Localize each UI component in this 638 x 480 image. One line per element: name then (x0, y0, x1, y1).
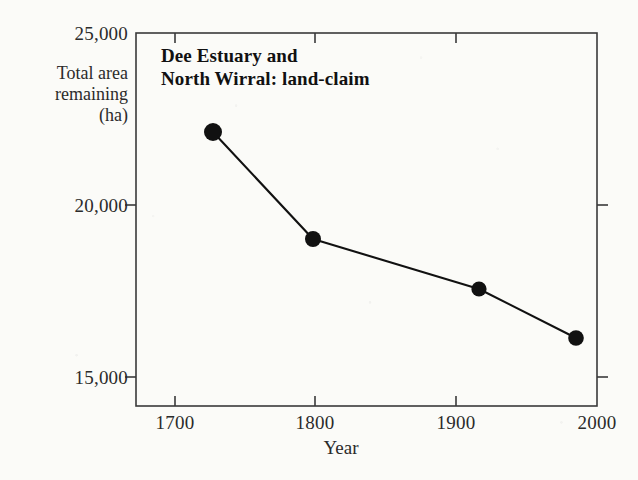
x-tick-label-2000: 2000 (557, 413, 637, 432)
y-tick-label-20000: 20,000 (75, 196, 128, 215)
x-tick-label-1700: 1700 (135, 413, 215, 432)
data-point-1798 (305, 231, 321, 247)
x-axis-ticks-top (175, 33, 456, 43)
x-axis-label: Year (281, 437, 401, 459)
data-line-series-1 (213, 132, 576, 338)
y-axis-label-line-1: Total area (4, 63, 128, 84)
chart-title-line-1: Dee Estuary and (161, 44, 370, 67)
y-axis-ticks (125, 205, 136, 377)
x-tick-label-1800: 1800 (275, 413, 355, 432)
y-axis-label-line-3: (ha) (4, 105, 128, 126)
y-axis-label-line-2: remaining (4, 84, 128, 105)
x-tick-label-1900: 1900 (416, 413, 496, 432)
x-axis-ticks (175, 396, 456, 406)
data-point-1985 (568, 330, 584, 346)
chart-figure: Dee Estuary and North Wirral: land-claim… (0, 0, 638, 480)
data-point-1916 (471, 281, 486, 296)
data-point-1727 (204, 123, 222, 141)
y-axis-label: Total area remaining (ha) (4, 63, 128, 126)
chart-title: Dee Estuary and North Wirral: land-claim (161, 44, 370, 90)
y-tick-label-15000: 15,000 (75, 368, 128, 387)
y-tick-label-25000: 25,000 (75, 24, 128, 43)
y-axis-ticks-right (597, 205, 608, 377)
chart-title-line-2: North Wirral: land-claim (161, 67, 370, 90)
